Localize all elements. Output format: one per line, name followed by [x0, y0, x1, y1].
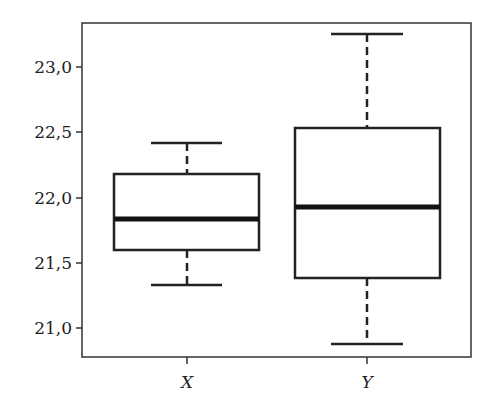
y-tick-label: 21,5 — [34, 253, 72, 273]
boxplot-chart: 23,0 22,5 22,0 21,5 21,0 X Y — [0, 0, 498, 412]
y-tick-label: 23,0 — [34, 57, 72, 77]
plot-frame — [82, 23, 471, 357]
x-tick-label: Y — [361, 372, 374, 392]
box-y — [295, 34, 440, 344]
box-x — [114, 143, 259, 285]
y-tick-label: 21,0 — [34, 318, 72, 338]
x-axis: X Y — [179, 357, 374, 392]
y-axis: 23,0 22,5 22,0 21,5 21,0 — [34, 57, 82, 338]
x-tick-label: X — [179, 372, 194, 392]
y-tick-label: 22,5 — [34, 122, 72, 142]
y-tick-label: 22,0 — [34, 188, 72, 208]
